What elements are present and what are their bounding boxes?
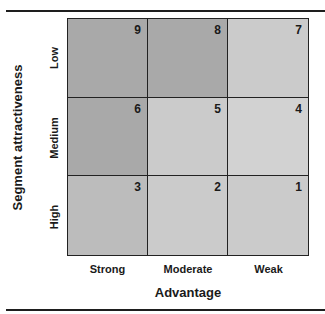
matrix-cell: 6	[68, 98, 148, 177]
matrix-cell: 2	[148, 176, 228, 255]
column-label-strong: Strong	[67, 263, 148, 275]
y-axis-title: Segment attractiveness	[6, 18, 30, 256]
row-label-high: High	[44, 177, 64, 256]
row-label-low: Low	[44, 18, 64, 98]
column-label-weak: Weak	[228, 263, 309, 275]
matrix-cell: 3	[68, 176, 148, 255]
matrix-cell: 4	[228, 98, 308, 177]
bottom-rule	[6, 309, 325, 311]
matrix-grid: 9 8 7 6 5 4 3 2 1	[67, 18, 309, 256]
top-rule	[6, 10, 325, 12]
matrix-cell: 5	[148, 98, 228, 177]
column-label-moderate: Moderate	[148, 263, 228, 275]
row-label-medium: Medium	[44, 98, 64, 177]
matrix-cell: 9	[68, 19, 148, 98]
matrix-cell: 1	[228, 176, 308, 255]
x-axis-title: Advantage	[67, 285, 309, 300]
matrix-cell: 8	[148, 19, 228, 98]
matrix-cell: 7	[228, 19, 308, 98]
